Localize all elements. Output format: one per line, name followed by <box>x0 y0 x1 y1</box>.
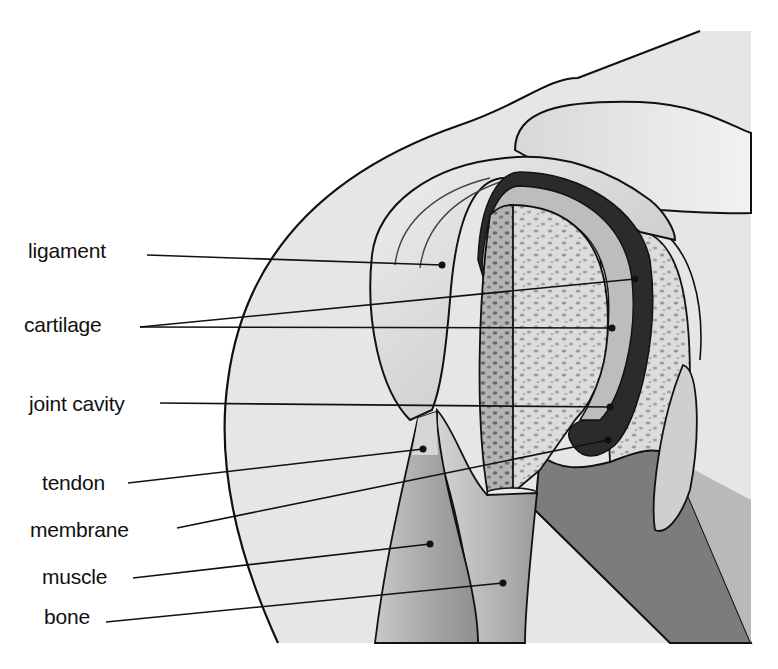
shoulder-joint-illustration <box>0 0 778 669</box>
label-bone: bone <box>44 606 90 627</box>
label-muscle: muscle <box>42 566 107 587</box>
leader-cartilage-lower <box>140 327 612 328</box>
label-cartilage: cartilage <box>24 314 102 335</box>
label-tendon: tendon <box>42 472 105 493</box>
label-membrane: membrane <box>30 519 129 540</box>
label-ligament: ligament <box>28 240 106 261</box>
label-joint-cavity: joint cavity <box>29 393 125 414</box>
